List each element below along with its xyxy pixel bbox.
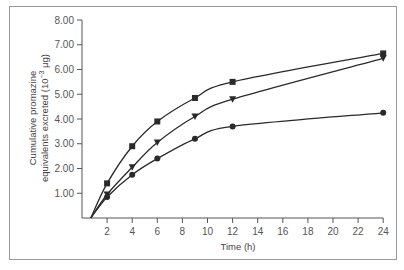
x-tick-label: 2 xyxy=(104,226,110,237)
data-series xyxy=(91,50,387,218)
x-tick-label: 20 xyxy=(327,226,339,237)
x-tick-label: 8 xyxy=(180,226,186,237)
series-triangle-markers xyxy=(91,55,387,218)
triangle-marker xyxy=(191,114,198,121)
circle-marker xyxy=(129,172,135,178)
x-tick-label: 24 xyxy=(378,226,390,237)
y-tick-label: 2.00 xyxy=(55,163,75,174)
y-tick-label: 1.00 xyxy=(55,188,75,199)
series-square-markers xyxy=(91,50,386,218)
x-tick-label: 16 xyxy=(277,226,289,237)
square-marker xyxy=(129,143,135,149)
circle-marker xyxy=(104,194,110,200)
y-axis-label: Cumulative promazine equivalents excrete… xyxy=(27,54,50,182)
circle-marker xyxy=(192,136,198,142)
circle-marker xyxy=(230,123,236,129)
y-tick-label: 5.00 xyxy=(55,89,75,100)
square-marker xyxy=(104,180,110,186)
y-tick-label: 3.00 xyxy=(55,138,75,149)
x-tick-label: 4 xyxy=(129,226,135,237)
y-axis-label-line1: Cumulative promazine xyxy=(27,71,38,166)
y-tick-label: 8.00 xyxy=(55,15,75,26)
y-tick-label: 6.00 xyxy=(55,64,75,75)
circle-marker xyxy=(154,156,160,162)
x-axis: 24681012141618202224 xyxy=(82,218,389,237)
square-marker xyxy=(192,95,198,101)
y-axis-label-line2: equivalents excreted (10−3 μg) xyxy=(38,54,50,182)
line-chart: 1.002.003.004.005.006.007.008.00 2468101… xyxy=(0,0,404,270)
square-marker xyxy=(154,118,160,124)
circle-marker xyxy=(380,110,386,116)
square-marker xyxy=(230,79,236,85)
y-axis: 1.002.003.004.005.006.007.008.00 xyxy=(55,15,82,219)
x-tick-label: 18 xyxy=(302,226,314,237)
x-tick-label: 14 xyxy=(252,226,264,237)
x-tick-label: 22 xyxy=(353,226,365,237)
x-tick-label: 6 xyxy=(155,226,161,237)
x-axis-label: Time (h) xyxy=(220,241,255,252)
y-tick-label: 4.00 xyxy=(55,114,75,125)
y-tick-label: 7.00 xyxy=(55,39,75,50)
x-tick-label: 12 xyxy=(227,226,239,237)
x-tick-label: 10 xyxy=(202,226,214,237)
